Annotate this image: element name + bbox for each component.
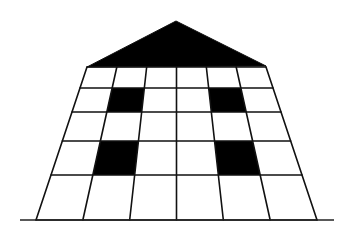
column-lines-group	[36, 67, 317, 220]
roof-triangle	[87, 21, 266, 67]
column-line-0	[36, 67, 87, 220]
filled-cell-upper-right-window	[209, 88, 247, 112]
diagram-stage: House-shaped perspective grid	[0, 0, 346, 233]
column-line-6	[266, 67, 317, 220]
filled-cell-upper-left-window	[107, 88, 144, 112]
house-grid-drawing	[0, 0, 346, 233]
